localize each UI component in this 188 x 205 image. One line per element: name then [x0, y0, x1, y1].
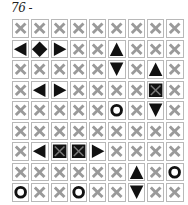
- grid-cell[interactable]: [88, 182, 107, 203]
- grid-cell[interactable]: [11, 39, 30, 60]
- grid-cell[interactable]: [69, 162, 88, 183]
- grid-cell[interactable]: [107, 18, 126, 39]
- grid-cell[interactable]: [50, 80, 69, 101]
- grid-cell[interactable]: [127, 162, 146, 183]
- empty-water-icon: [127, 141, 146, 162]
- grid-cell[interactable]: [69, 39, 88, 60]
- grid-cell[interactable]: [146, 39, 165, 60]
- grid-cell[interactable]: [50, 59, 69, 80]
- empty-water-icon: [69, 39, 88, 60]
- grid-cell[interactable]: [69, 121, 88, 142]
- grid-cell[interactable]: [11, 80, 30, 101]
- puzzle-grid: [11, 18, 185, 203]
- grid-cell[interactable]: [11, 162, 30, 183]
- grid-cell[interactable]: [30, 182, 49, 203]
- grid-cell[interactable]: [165, 39, 184, 60]
- grid-cell[interactable]: [107, 39, 126, 60]
- grid-cell[interactable]: [146, 141, 165, 162]
- grid-cell[interactable]: [11, 18, 30, 39]
- empty-water-icon: [50, 100, 69, 121]
- grid-cell[interactable]: [165, 162, 184, 183]
- grid-cell[interactable]: [165, 18, 184, 39]
- grid-cell[interactable]: [69, 80, 88, 101]
- empty-water-icon: [146, 162, 165, 183]
- grid-cell[interactable]: [165, 59, 184, 80]
- grid-cell[interactable]: [107, 182, 126, 203]
- grid-cell[interactable]: [88, 121, 107, 142]
- grid-cell[interactable]: [30, 121, 49, 142]
- empty-water-icon: [11, 162, 30, 183]
- grid-cell[interactable]: [11, 59, 30, 80]
- submarine-icon: [107, 100, 126, 121]
- grid-cell[interactable]: [11, 141, 30, 162]
- grid-cell[interactable]: [30, 39, 49, 60]
- grid-cell[interactable]: [30, 18, 49, 39]
- grid-cell[interactable]: [88, 100, 107, 121]
- grid-cell[interactable]: [127, 59, 146, 80]
- grid-cell[interactable]: [88, 80, 107, 101]
- empty-water-icon: [30, 162, 49, 183]
- grid-cell[interactable]: [127, 80, 146, 101]
- grid-cell[interactable]: [107, 141, 126, 162]
- grid-cell[interactable]: [69, 18, 88, 39]
- grid-cell[interactable]: [146, 121, 165, 142]
- grid-cell[interactable]: [30, 162, 49, 183]
- grid-cell[interactable]: [88, 39, 107, 60]
- grid-cell[interactable]: [107, 121, 126, 142]
- empty-water-icon: [88, 39, 107, 60]
- grid-cell[interactable]: [146, 18, 165, 39]
- ship-end-bottom-icon: [127, 182, 146, 203]
- grid-cell[interactable]: [50, 121, 69, 142]
- grid-cell[interactable]: [50, 18, 69, 39]
- grid-cell[interactable]: [165, 141, 184, 162]
- grid-cell[interactable]: [127, 39, 146, 60]
- grid-cell[interactable]: [127, 100, 146, 121]
- ship-end-left-icon: [11, 39, 30, 60]
- grid-cell[interactable]: [50, 162, 69, 183]
- grid-cell[interactable]: [127, 141, 146, 162]
- grid-cell[interactable]: [146, 162, 165, 183]
- grid-cell[interactable]: [165, 80, 184, 101]
- grid-cell[interactable]: [127, 182, 146, 203]
- grid-cell[interactable]: [88, 18, 107, 39]
- grid-cell[interactable]: [165, 121, 184, 142]
- empty-water-icon: [50, 162, 69, 183]
- empty-water-icon: [30, 100, 49, 121]
- submarine-icon: [165, 162, 184, 183]
- grid-cell[interactable]: [69, 59, 88, 80]
- grid-cell[interactable]: [69, 182, 88, 203]
- grid-cell[interactable]: [50, 182, 69, 203]
- grid-cell[interactable]: [69, 141, 88, 162]
- empty-water-icon: [30, 121, 49, 142]
- grid-cell[interactable]: [30, 80, 49, 101]
- grid-cell[interactable]: [146, 59, 165, 80]
- grid-cell[interactable]: [50, 141, 69, 162]
- grid-cell[interactable]: [11, 100, 30, 121]
- grid-cell[interactable]: [50, 100, 69, 121]
- grid-cell[interactable]: [30, 59, 49, 80]
- grid-cell[interactable]: [107, 80, 126, 101]
- grid-cell[interactable]: [127, 18, 146, 39]
- grid-cell[interactable]: [69, 100, 88, 121]
- grid-cell[interactable]: [146, 100, 165, 121]
- grid-cell[interactable]: [88, 141, 107, 162]
- empty-water-icon: [146, 141, 165, 162]
- grid-cell[interactable]: [30, 141, 49, 162]
- grid-cell[interactable]: [146, 80, 165, 101]
- ship-end-right-icon: [50, 39, 69, 60]
- grid-cell[interactable]: [107, 59, 126, 80]
- grid-cell[interactable]: [11, 121, 30, 142]
- grid-cell[interactable]: [11, 182, 30, 203]
- empty-water-icon: [11, 121, 30, 142]
- grid-cell[interactable]: [30, 100, 49, 121]
- grid-cell[interactable]: [165, 182, 184, 203]
- grid-cell[interactable]: [88, 59, 107, 80]
- grid-cell[interactable]: [107, 100, 126, 121]
- grid-cell[interactable]: [127, 121, 146, 142]
- grid-cell[interactable]: [146, 182, 165, 203]
- grid-cell[interactable]: [107, 162, 126, 183]
- grid-cell[interactable]: [165, 100, 184, 121]
- empty-water-icon: [165, 182, 184, 203]
- grid-cell[interactable]: [88, 162, 107, 183]
- grid-cell[interactable]: [50, 39, 69, 60]
